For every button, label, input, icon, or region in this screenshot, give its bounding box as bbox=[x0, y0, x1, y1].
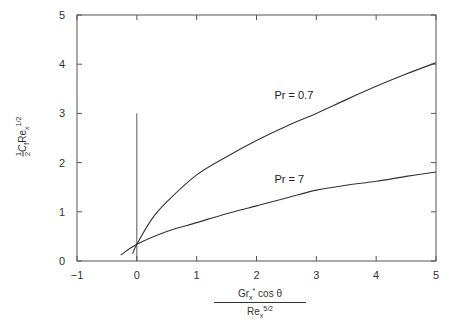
y-tick-label: 4 bbox=[59, 58, 65, 70]
x-axis-label-numerator: Grx* cos θ bbox=[214, 287, 306, 303]
y-tick-label: 2 bbox=[59, 157, 65, 169]
x-label-gr: Gr bbox=[238, 288, 249, 299]
chart: −1012345012345Pr = 0.7Pr = 7 bbox=[0, 0, 451, 333]
y-axis-label: 12CfRex1/2 bbox=[15, 92, 32, 182]
y-label-c: C bbox=[17, 145, 28, 152]
x-label-re-sub: x bbox=[260, 313, 264, 320]
curve-label: Pr = 0.7 bbox=[274, 89, 313, 101]
x-axis-label-denominator: Rex5/2 bbox=[200, 303, 320, 319]
x-tick-label: 3 bbox=[313, 269, 319, 281]
curve-label: Pr = 7 bbox=[274, 173, 304, 185]
y-label-re: Re bbox=[17, 130, 28, 143]
y-label-c-sub: f bbox=[23, 143, 30, 145]
x-tick-label: 5 bbox=[433, 269, 439, 281]
x-label-re: Re bbox=[247, 307, 260, 318]
x-tick-label: 0 bbox=[134, 269, 140, 281]
y-label-re-sup: 1/2 bbox=[15, 117, 22, 127]
x-tick-label: 2 bbox=[253, 269, 259, 281]
x-axis-label: Grx* cos θ Rex5/2 bbox=[200, 287, 320, 320]
x-label-re-sup: 5/2 bbox=[263, 305, 273, 312]
y-label-half: 12 bbox=[15, 152, 32, 156]
x-tick-label: 4 bbox=[373, 269, 379, 281]
y-tick-label: 0 bbox=[59, 255, 65, 267]
x-label-cos: cos θ bbox=[255, 288, 282, 299]
x-tick-label: 1 bbox=[194, 269, 200, 281]
y-tick-label: 3 bbox=[59, 107, 65, 119]
x-tick-label: −1 bbox=[71, 269, 84, 281]
y-tick-label: 5 bbox=[59, 9, 65, 21]
plot-frame bbox=[77, 15, 436, 261]
x-label-gr-sub: x bbox=[249, 294, 253, 301]
y-label-half-den: 2 bbox=[24, 152, 32, 156]
y-label-re-sub: x bbox=[23, 126, 30, 130]
y-tick-label: 1 bbox=[59, 206, 65, 218]
